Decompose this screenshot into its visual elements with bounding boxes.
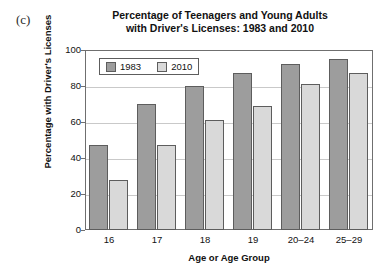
bar-group <box>85 50 133 230</box>
bar-group <box>277 50 325 230</box>
panel-letter: (c) <box>16 12 30 28</box>
legend-entry-2010: 2010 <box>157 61 192 72</box>
y-tick-label: 100 <box>55 44 81 55</box>
bar-1983-25–29 <box>329 59 348 230</box>
bar-group <box>325 50 373 230</box>
bar-1983-16 <box>89 145 108 230</box>
bar-1983-17 <box>137 104 156 230</box>
y-axis-title: Percentage with Driver's Licenses <box>42 19 53 169</box>
bar-group <box>181 50 229 230</box>
bar-2010-19 <box>253 106 272 230</box>
legend-label-2010: 2010 <box>171 61 192 72</box>
bar-2010-16 <box>109 180 128 230</box>
legend-swatch-1983 <box>106 62 116 72</box>
legend-swatch-2010 <box>157 62 167 72</box>
x-tick-label: 25–29 <box>319 234 379 245</box>
bar-1983-19 <box>233 73 252 230</box>
legend-entry-1983: 1983 <box>106 61 141 72</box>
bar-group <box>229 50 277 230</box>
chart-title: Percentage of Teenagers and Young Adults… <box>60 9 380 35</box>
y-tick-label: 80 <box>55 80 81 91</box>
y-tick-label: 20 <box>55 188 81 199</box>
chart-legend: 19832010 <box>99 58 199 75</box>
legend-label-1983: 1983 <box>120 61 141 72</box>
x-axis-title: Age or Age Group <box>85 252 373 263</box>
bar-2010-18 <box>205 120 224 230</box>
bar-1983-18 <box>185 86 204 230</box>
bar-group <box>133 50 181 230</box>
bar-1983-20–24 <box>281 64 300 230</box>
bar-2010-17 <box>157 145 176 230</box>
bar-2010-25–29 <box>349 73 368 230</box>
y-tick-label: 40 <box>55 152 81 163</box>
y-tick-label: 60 <box>55 116 81 127</box>
y-tick-label: 0 <box>55 224 81 235</box>
bar-2010-20–24 <box>301 84 320 230</box>
chart-title-line-1: Percentage of Teenagers and Young Adults <box>60 9 380 22</box>
bars-layer <box>85 50 373 230</box>
y-tick-mark <box>81 230 85 231</box>
chart-title-line-2: with Driver's Licenses: 1983 and 2010 <box>60 22 380 35</box>
